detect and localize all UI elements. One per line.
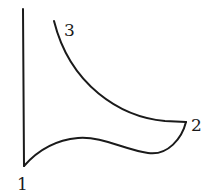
point-label-1: 1 (17, 174, 28, 194)
curve-1-to-2 (24, 122, 186, 166)
point-label-3: 3 (64, 20, 75, 40)
point-label-2: 2 (191, 115, 202, 135)
vertical-line (23, 9, 24, 166)
cycle-diagram: 1 2 3 (0, 0, 219, 194)
